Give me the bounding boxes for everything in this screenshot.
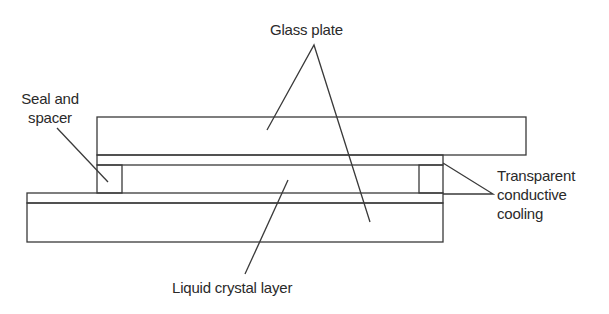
bottom-conductive-coating — [27, 193, 443, 203]
glass-plate-label: Glass plate — [270, 20, 343, 39]
right-seal-spacer — [419, 165, 443, 193]
seal-spacer-label-line1: Seal and — [18, 89, 82, 108]
tcc-label-line3: cooling — [497, 204, 575, 223]
seal-spacer-label: Seal and spacer — [18, 89, 82, 127]
lcd-cross-section-diagram: Glass plate Seal and spacer Transparent … — [0, 0, 609, 314]
top-glass-plate — [97, 117, 526, 155]
tcc-label-line2: conductive — [497, 185, 575, 204]
transparent-conductive-label: Transparent conductive cooling — [497, 166, 575, 223]
tcc-label-line1: Transparent — [497, 166, 575, 185]
glass-plate-leader — [267, 45, 370, 222]
top-conductive-coating — [97, 155, 443, 165]
left-seal-spacer — [97, 165, 122, 193]
bottom-glass-plate — [27, 203, 443, 242]
liquid-crystal-label: Liquid crystal layer — [172, 278, 292, 297]
seal-spacer-label-line2: spacer — [18, 108, 82, 127]
liquid-crystal-leader — [245, 180, 288, 274]
conductive-coating-leader — [443, 163, 493, 194]
diagram-drawing — [0, 0, 609, 314]
